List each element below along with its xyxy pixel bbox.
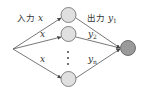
output-node (121, 41, 136, 56)
edge-input-2 (13, 37, 61, 49)
ellipsis-dot (67, 51, 69, 53)
input-label-1: 入力 x (17, 14, 43, 23)
model-node-n (61, 72, 76, 87)
ellipsis-dot (67, 57, 69, 59)
ellipsis-dot (67, 63, 69, 65)
input-label-2: x (40, 30, 45, 39)
output-label-2: y2 (88, 30, 97, 40)
edge-output-n (76, 49, 120, 78)
input-label-n: x (40, 55, 45, 64)
output-label-n: yn (88, 55, 97, 65)
edge-input-n (13, 49, 61, 78)
model-node-2 (61, 27, 76, 42)
model-node-1 (61, 8, 76, 23)
output-label-1: 出力 y1 (87, 14, 117, 24)
edge-output-2 (76, 37, 120, 48)
